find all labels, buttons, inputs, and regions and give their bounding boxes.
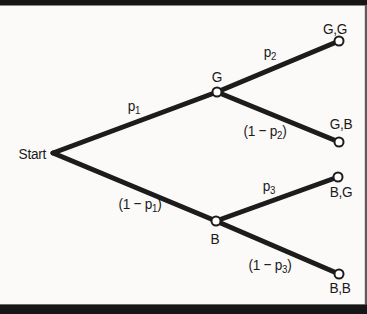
tree-node-GG bbox=[335, 37, 344, 46]
outcome-label-GG: G,G bbox=[323, 20, 347, 37]
tree-node-BG bbox=[334, 173, 343, 182]
figure-canvas: p1(1 − p1)p2(1 − p2)p3(1 − p3)StartGBG,G… bbox=[0, 0, 367, 314]
bottom-photo-band bbox=[0, 305, 367, 314]
probability-tree-diagram: p1(1 − p1)p2(1 − p2)p3(1 − p3)StartGBG,G… bbox=[0, 0, 367, 314]
top-photo-band bbox=[0, 0, 367, 6]
start-label: Start bbox=[19, 145, 47, 162]
tree-node-BB bbox=[335, 270, 344, 279]
node-label-B: B bbox=[211, 230, 220, 247]
figure-background bbox=[0, 0, 367, 314]
outcome-label-BB: B,B bbox=[329, 279, 350, 296]
outcome-label-BG: B,G bbox=[330, 183, 353, 200]
outcome-label-GB: G,B bbox=[330, 115, 353, 132]
tree-node-G bbox=[213, 88, 222, 97]
node-label-G: G bbox=[212, 68, 222, 85]
tree-node-GB bbox=[335, 138, 344, 147]
tree-node-B bbox=[212, 217, 221, 226]
